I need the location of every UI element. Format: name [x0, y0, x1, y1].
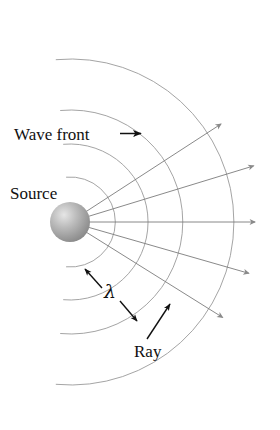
ray-label: Ray: [134, 342, 162, 361]
source-label: Source: [10, 184, 57, 203]
diagram-canvas: Wave front Source λ Ray: [0, 0, 280, 430]
wavelength-lambda-label: λ: [103, 280, 116, 302]
wave-front-diagram: Wave front Source λ Ray: [0, 0, 280, 430]
source-sphere: [50, 202, 90, 242]
background: [0, 0, 280, 430]
wave-front-label: Wave front: [14, 125, 90, 144]
